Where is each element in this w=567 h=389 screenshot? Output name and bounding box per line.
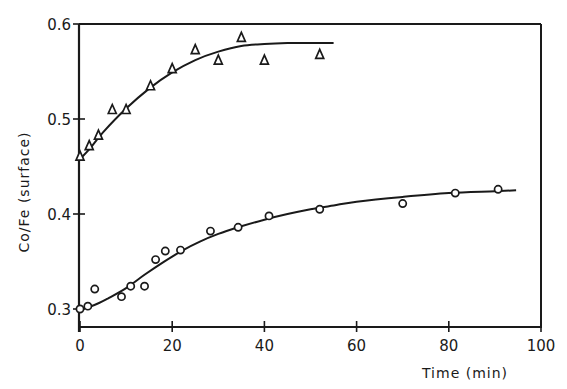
- triangle-marker: [147, 81, 155, 90]
- triangle-marker: [214, 55, 222, 64]
- y-tick-label: 0.6: [47, 16, 71, 34]
- y-tick-label: 0.4: [47, 206, 71, 224]
- triangle-marker: [76, 151, 84, 160]
- circle-marker: [265, 212, 272, 219]
- circle-marker: [84, 303, 91, 310]
- x-tick-label: 100: [527, 337, 556, 355]
- circle-marker: [91, 285, 98, 292]
- y-tick-label: 0.3: [47, 301, 71, 319]
- y-axis-title: Co/Fe (surface): [16, 131, 32, 252]
- circle-marker: [162, 247, 169, 254]
- chart: 020406080100 0.30.40.50.6 Time (min) Co/…: [0, 0, 567, 389]
- triangle-marker: [108, 105, 116, 114]
- circle-marker: [316, 206, 323, 213]
- circle-marker: [118, 293, 125, 300]
- fit-curves: [80, 43, 516, 309]
- triangle-marker: [85, 141, 93, 150]
- circle-marker: [235, 224, 242, 231]
- circle-marker: [399, 200, 406, 207]
- x-tick-label: 0: [75, 337, 85, 355]
- y-tick-label: 0.5: [47, 111, 71, 129]
- data-markers: [76, 32, 502, 312]
- triangle-marker: [316, 49, 324, 58]
- circle-marker: [141, 283, 148, 290]
- circle-marker: [452, 190, 459, 197]
- circle-marker: [127, 283, 134, 290]
- x-tick-label: 80: [439, 337, 458, 355]
- circle-marker: [152, 256, 159, 263]
- triangle-marker: [237, 32, 245, 41]
- circle-marker: [495, 186, 502, 193]
- circle-marker: [177, 247, 184, 254]
- circle-marker: [76, 305, 83, 312]
- triangles-fit-curve: [80, 43, 334, 159]
- triangle-marker: [94, 130, 102, 139]
- triangle-marker: [191, 45, 199, 54]
- x-axis-title: Time (min): [421, 365, 508, 381]
- triangle-marker: [168, 64, 176, 73]
- triangle-marker: [260, 55, 268, 64]
- x-tick-label: 20: [163, 337, 182, 355]
- x-tick-label: 60: [347, 337, 366, 355]
- circle-marker: [207, 228, 214, 235]
- circles-fit-curve: [80, 190, 516, 309]
- x-tick-label: 40: [255, 337, 274, 355]
